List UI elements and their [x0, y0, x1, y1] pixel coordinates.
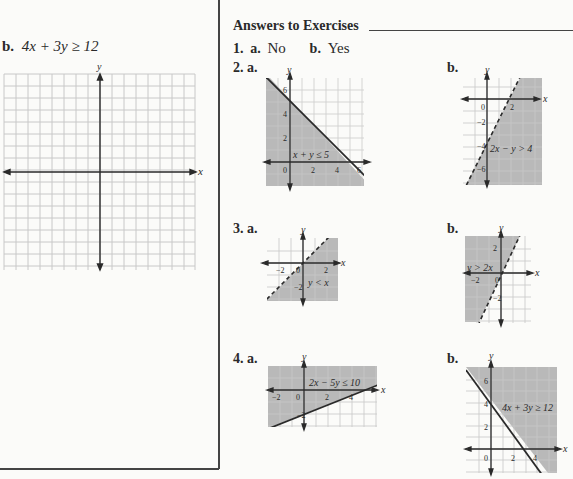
graph-4b: 642 024 y x 4x + 3y ≥ 12	[0, 0, 573, 479]
svg-text:y: y	[488, 350, 494, 361]
svg-text:4: 4	[484, 400, 488, 409]
svg-text:4: 4	[533, 454, 537, 463]
svg-text:6: 6	[484, 377, 488, 386]
svg-text:2: 2	[484, 423, 488, 432]
graph-4b-inequality: 4x + 3y ≥ 12	[502, 402, 553, 413]
svg-text:2: 2	[511, 454, 515, 463]
svg-text:x: x	[562, 443, 568, 454]
svg-text:0: 0	[484, 454, 488, 463]
